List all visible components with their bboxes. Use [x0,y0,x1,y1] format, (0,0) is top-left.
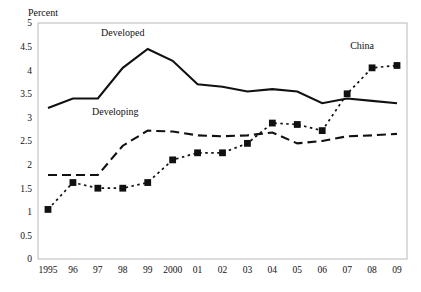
data-point-marker [219,149,226,156]
chart-container: 00.511.522.533.544.55 199596979899200001… [0,0,421,292]
y-tick-label: 2 [27,160,32,170]
x-tick-label: 99 [143,265,153,275]
x-tick-label: 07 [342,265,352,275]
data-point-marker [344,90,351,97]
data-point-marker [269,120,276,127]
data-point-marker [294,121,301,128]
data-point-marker [319,127,326,134]
plot-border [38,23,407,259]
y-tick-label: 5 [27,18,32,28]
x-axis-tick-labels: 1995969798992000010203040506070809 [39,265,403,275]
plot-frame [38,23,407,259]
data-point-marker [169,156,176,163]
y-tick-label: 4.5 [20,42,32,52]
series-label-china: China [350,40,374,51]
x-tick-label: 08 [367,265,377,275]
y-tick-label: 1.5 [20,184,32,194]
x-tick-label: 2000 [163,265,182,275]
data-point-marker [194,149,201,156]
data-point-marker [144,179,151,186]
line-chart: 00.511.522.533.544.55 199596979899200001… [0,0,421,292]
series-label-developing: Developing [92,106,139,117]
data-point-marker [45,206,52,213]
y-tick-label: 0 [27,254,32,264]
y-tick-label: 0.5 [20,231,32,241]
x-tick-label: 97 [93,265,103,275]
series-line-developed [48,49,397,108]
series-group [45,49,401,213]
y-tick-label: 2.5 [20,136,32,146]
data-point-marker [70,179,77,186]
x-tick-label: 09 [392,265,402,275]
x-tick-label: 98 [118,265,128,275]
y-axis-title: Percent [28,7,58,18]
data-point-marker [394,62,401,69]
x-tick-label: 03 [243,265,253,275]
series-label-developed: Developed [101,27,144,38]
x-tick-label: 02 [218,265,228,275]
x-tick-label: 04 [268,265,278,275]
x-tick-label: 96 [68,265,78,275]
data-point-marker [369,64,376,71]
y-tick-label: 3.5 [20,89,32,99]
data-point-marker [244,140,251,147]
x-tick-label: 01 [193,265,203,275]
y-tick-label: 3 [27,113,32,123]
y-tick-label: 4 [27,66,32,76]
x-tick-label: 05 [293,265,303,275]
x-tick-label: 06 [317,265,327,275]
data-point-marker [94,185,101,192]
data-point-marker [119,185,126,192]
y-tick-label: 1 [27,207,32,217]
y-axis-tick-labels: 00.511.522.533.544.55 [20,18,32,264]
series-labels: DevelopedDevelopingChina [92,27,375,117]
x-tick-label: 1995 [39,265,58,275]
